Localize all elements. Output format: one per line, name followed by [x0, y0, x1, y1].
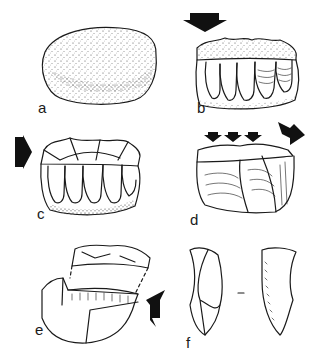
panel-c-core — [41, 138, 140, 216]
panel-label-c: c — [37, 206, 45, 221]
panel-label-b: b — [197, 100, 205, 115]
panel-label-e: e — [35, 322, 43, 337]
panel-f-tablet — [190, 248, 296, 335]
panel-label-a: a — [38, 100, 46, 115]
panel-a-nodule — [42, 27, 156, 104]
arrow-right-icon — [15, 135, 32, 169]
core-reduction-figure: a b c d e f — [0, 0, 318, 355]
arrow-down-small-icon-3 — [244, 132, 262, 142]
arrow-down-small-icon-2 — [224, 132, 242, 142]
figure-drawing — [0, 0, 318, 355]
panel-d-core — [197, 144, 294, 213]
arrow-down-small-icon-1 — [204, 132, 222, 142]
panel-label-d: d — [190, 212, 198, 227]
arrow-up-left-icon — [146, 290, 165, 327]
panel-e-core — [42, 245, 150, 343]
panel-b-core — [196, 38, 299, 110]
arrow-down-left-icon — [278, 122, 305, 145]
panel-label-f: f — [186, 335, 190, 350]
arrow-down-icon — [183, 13, 227, 32]
